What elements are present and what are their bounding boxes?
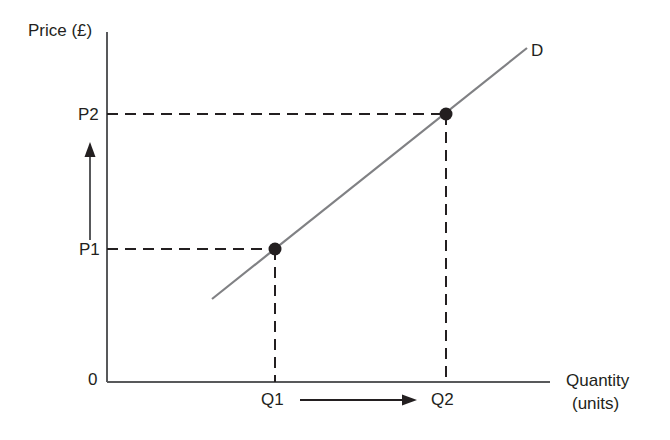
quantity-label-q2: Q2 xyxy=(431,391,454,408)
y-axis-label: Price (£) xyxy=(28,22,92,39)
demand-curve-line xyxy=(212,48,527,299)
quantity-label-q1: Q1 xyxy=(261,391,284,408)
origin-label: 0 xyxy=(88,371,97,388)
x-axis-label-line2: (units) xyxy=(572,395,619,412)
x-axis-label-line1: Quantity xyxy=(566,372,629,389)
price-label-p2: P2 xyxy=(78,106,99,123)
equilibrium-point-1 xyxy=(269,243,282,256)
quantity-increase-arrow xyxy=(300,395,417,406)
price-increase-arrow xyxy=(85,142,96,240)
price-quantity-diagram: Price (£) P2 P1 0 Q1 Q2 D Quantity (unit… xyxy=(0,0,670,440)
equilibrium-point-2 xyxy=(440,108,453,121)
demand-curve-label: D xyxy=(531,42,543,59)
price-label-p1: P1 xyxy=(79,241,100,258)
